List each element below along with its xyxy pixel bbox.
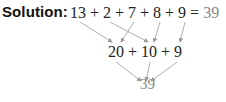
arrow-8-to-10 xyxy=(154,22,160,42)
grouping-arrows xyxy=(0,0,226,102)
arrow-2-to-10 xyxy=(110,22,148,42)
arrow-20-to-39 xyxy=(116,62,141,81)
arrow-9-to-39 xyxy=(151,62,177,81)
arrow-9-to-9 xyxy=(180,22,185,42)
arrow-13-to-20 xyxy=(80,22,112,42)
arrow-7-to-20 xyxy=(121,22,134,42)
arrow-10-to-39 xyxy=(146,62,150,81)
